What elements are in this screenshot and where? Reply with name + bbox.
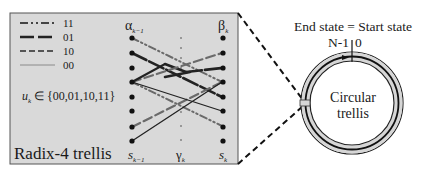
state-node — [129, 50, 134, 55]
state-node — [129, 65, 134, 70]
state-node — [220, 65, 225, 70]
state-node — [220, 94, 225, 99]
state-node — [129, 94, 134, 99]
end-start-state-label: End state = Start state — [294, 19, 412, 34]
legend-label: 11 — [63, 17, 74, 29]
state-node — [129, 138, 134, 143]
circular-label-line1: Circular — [330, 90, 376, 105]
diagram-canvas: 11 01 10 00 uk ∈ {00,01,10,11} Radix-4 t… — [0, 0, 430, 173]
state-node — [220, 79, 225, 84]
zoom-connector-lines — [238, 13, 303, 164]
circular-label-line2: trellis — [337, 106, 369, 121]
index-zero: 0 — [355, 35, 362, 50]
legend-label: 01 — [63, 31, 74, 43]
input-set-label: uk ∈ {00,01,10,11} — [22, 89, 115, 105]
state-node — [220, 50, 225, 55]
state-node — [129, 124, 134, 129]
state-node — [220, 138, 225, 143]
legend-label: 10 — [63, 45, 75, 57]
trellis-title: Radix-4 trellis — [14, 144, 112, 163]
trellis-section-marker — [300, 100, 310, 106]
state-node — [129, 108, 134, 113]
state-node — [220, 35, 225, 40]
legend-label: 00 — [63, 59, 75, 71]
index-n-minus-1: N-1 — [328, 35, 349, 50]
state-node — [129, 79, 134, 84]
state-node — [220, 108, 225, 113]
state-node — [220, 124, 225, 129]
state-node — [129, 35, 134, 40]
